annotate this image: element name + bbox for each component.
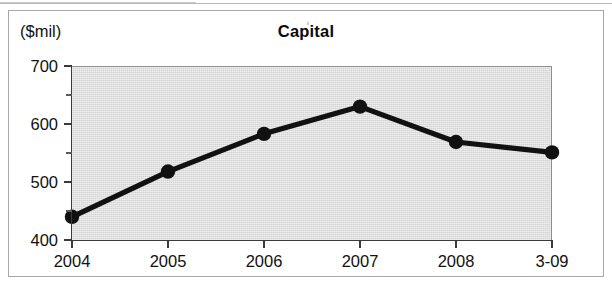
x-tick-label-2004: 2004: [32, 252, 112, 271]
x-tick-2007: [359, 240, 360, 248]
x-tick-label-2005: 2005: [128, 252, 208, 271]
y-minor-tick-450: [66, 210, 72, 211]
scan-speck-artifact: [307, 22, 309, 25]
y-tick-label-700: 700: [14, 57, 58, 76]
scan-artifact-block: [0, 0, 196, 3]
data-point-2006: [257, 127, 271, 141]
scan-artifact-line: [0, 3, 612, 4]
y-tick-label-600: 600: [14, 115, 58, 134]
data-point-2007: [353, 99, 367, 113]
x-tick-3-09: [551, 240, 552, 248]
y-tick-label-500: 500: [14, 173, 58, 192]
x-tick-label-3-09: 3-09: [512, 252, 592, 271]
y-minor-tick-550: [66, 152, 72, 153]
y-minor-tick-650: [66, 94, 72, 95]
y-tick-label-400: 400: [14, 231, 58, 250]
x-tick-2006: [263, 240, 264, 248]
x-tick-label-2007: 2007: [320, 252, 400, 271]
x-tick-label-2008: 2008: [416, 252, 496, 271]
y-tick-600: [64, 123, 72, 124]
x-tick-2008: [455, 240, 456, 248]
x-tick-label-2006: 2006: [224, 252, 304, 271]
data-point-3-09: [545, 145, 559, 159]
y-tick-500: [64, 181, 72, 182]
chart-title: Capital: [0, 22, 612, 41]
x-axis-line: [71, 240, 553, 241]
line-chart-svg: [72, 66, 552, 240]
y-tick-700: [64, 65, 72, 66]
x-tick-2005: [167, 240, 168, 248]
plot-area: [72, 66, 552, 240]
data-point-2008: [449, 135, 463, 149]
x-tick-2004: [71, 240, 72, 248]
data-line-capital: [72, 107, 552, 217]
data-point-2005: [161, 164, 175, 178]
